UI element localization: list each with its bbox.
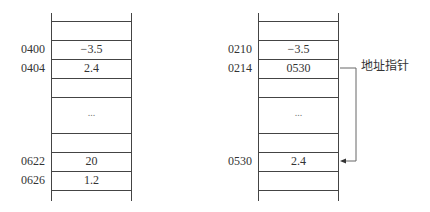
pointer-arrow-icon	[0, 0, 430, 212]
pointer-label: 地址指针	[361, 56, 409, 73]
